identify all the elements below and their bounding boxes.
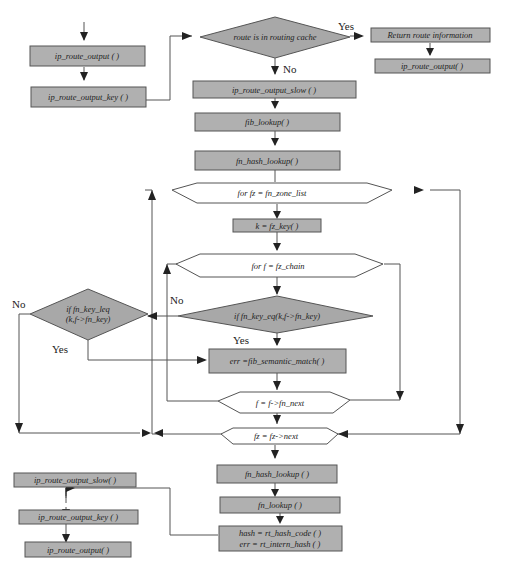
node-fib-lookup: fib_lookup( ) xyxy=(195,113,340,131)
svg-text:ip_route_output_key ( ): ip_route_output_key ( ) xyxy=(38,512,118,522)
loop-fz-next: fz = fz->next xyxy=(221,428,338,444)
svg-text:fn_hash_lookup ( ): fn_hash_lookup ( ) xyxy=(245,469,309,479)
node-ip-route-output-3: ip_route_output( ) xyxy=(25,542,131,557)
svg-text:ip_route_output( ): ip_route_output( ) xyxy=(47,545,109,555)
svg-text:ip_route_output_slow( ): ip_route_output_slow( ) xyxy=(34,475,116,485)
node-ip-route-output-slow-2: ip_route_output_slow( ) xyxy=(14,473,136,487)
svg-text:hash = rt_hash_code ( ): hash = rt_hash_code ( ) xyxy=(239,528,321,538)
svg-text:fn_hash_lookup( ): fn_hash_lookup( ) xyxy=(236,156,298,166)
svg-text:ip_route_output_slow ( ): ip_route_output_slow ( ) xyxy=(232,85,316,95)
svg-text:(k,f->fn_key): (k,f->fn_key) xyxy=(66,314,111,324)
loop-f-next: f = f->fn_next xyxy=(218,392,350,413)
svg-text:f = f->fn_next: f = f->fn_next xyxy=(256,398,305,408)
node-ip-route-output-2: ip_route_output( ) xyxy=(375,59,490,73)
node-hash-intern: hash = rt_hash_code ( ) err = rt_intern_… xyxy=(219,526,342,551)
loop-for-f: for f = fz_chain xyxy=(176,254,383,277)
label-yes-cache: Yes xyxy=(338,20,354,32)
decision-route-in-cache: route is in routing cache xyxy=(200,17,350,58)
decision-fn-key-eq: if fn_key_eq(k,f->fn_key) xyxy=(178,296,373,333)
label-no-leq: No xyxy=(12,298,26,310)
node-ip-route-output-key-2: ip_route_output_key ( ) xyxy=(19,510,138,524)
svg-text:if fn_key_eq(k,f->fn_key): if fn_key_eq(k,f->fn_key) xyxy=(234,311,320,321)
decision-fn-key-leq: if fn_key_leq (k,f->fn_key) xyxy=(30,289,148,340)
svg-text:for fz = fn_zone_list: for fz = fn_zone_list xyxy=(238,188,307,198)
svg-text:if fn_key_leq: if fn_key_leq xyxy=(66,304,110,314)
svg-text:ip_route_output ( ): ip_route_output ( ) xyxy=(55,51,120,61)
node-fib-semantic-match: err =fib_semantic_match( ) xyxy=(209,349,346,373)
svg-text:Return route information: Return route information xyxy=(386,30,472,40)
svg-text:fib_lookup( ): fib_lookup( ) xyxy=(245,117,289,127)
label-no-cache: No xyxy=(283,63,297,75)
flowchart: ip_route_output ( ) ip_route_output_key … xyxy=(0,0,505,569)
node-ip-route-output-slow-1: ip_route_output_slow ( ) xyxy=(193,81,356,98)
node-ip-route-output-key-1: ip_route_output_key ( ) xyxy=(31,87,146,107)
svg-text:fn_lookup ( ): fn_lookup ( ) xyxy=(258,500,302,510)
node-k-fz-key: k = fz_key( ) xyxy=(233,219,321,232)
svg-text:k = fz_key( ): k = fz_key( ) xyxy=(256,221,299,231)
node-fn-hash-lookup-1: fn_hash_lookup( ) xyxy=(195,151,340,170)
node-fn-hash-lookup-2: fn_hash_lookup ( ) xyxy=(217,465,337,483)
svg-text:err =fib_semantic_match( ): err =fib_semantic_match( ) xyxy=(230,356,325,366)
label-yes-leq: Yes xyxy=(52,343,68,355)
node-ip-route-output-1: ip_route_output ( ) xyxy=(30,46,145,66)
loop-for-fz: for fz = fn_zone_list xyxy=(172,183,392,203)
svg-text:route is in routing cache: route is in routing cache xyxy=(234,32,317,42)
label-no-eq: No xyxy=(170,294,184,306)
svg-text:fz = fz->next: fz = fz->next xyxy=(254,431,299,441)
node-return-route-info: Return route information xyxy=(371,28,490,42)
svg-text:ip_route_output_key ( ): ip_route_output_key ( ) xyxy=(48,92,128,102)
svg-text:ip_route_output( ): ip_route_output( ) xyxy=(401,61,463,71)
svg-text:err = rt_intern_hash ( ): err = rt_intern_hash ( ) xyxy=(240,539,321,549)
node-fn-lookup: fn_lookup ( ) xyxy=(220,497,340,513)
svg-text:for f = fz_chain: for f = fz_chain xyxy=(251,261,304,271)
label-yes-eq: Yes xyxy=(233,334,249,346)
